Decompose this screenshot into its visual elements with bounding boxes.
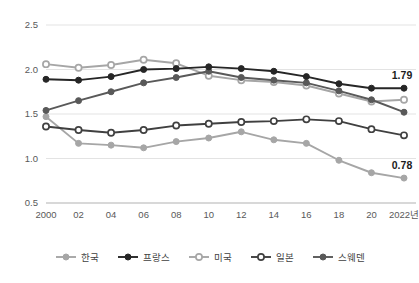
data-point bbox=[141, 80, 147, 86]
legend-item-label: 미국 bbox=[214, 250, 232, 264]
data-point bbox=[368, 85, 374, 91]
legend-item-label: 일본 bbox=[276, 250, 294, 264]
y-axis-tick-label: 0.5 bbox=[25, 197, 38, 208]
plot-area: 2.52.01.51.00.52000020406081012141618202… bbox=[0, 0, 419, 236]
data-point bbox=[401, 132, 407, 138]
data-point bbox=[271, 77, 277, 83]
data-point bbox=[43, 114, 49, 120]
data-point bbox=[173, 122, 179, 128]
fertility-rate-line-chart: 2.52.01.51.00.52000020406081012141618202… bbox=[0, 0, 419, 283]
data-point bbox=[303, 80, 309, 86]
data-point bbox=[108, 89, 114, 95]
x-axis-tick-label: 02 bbox=[73, 209, 84, 220]
data-point bbox=[336, 118, 342, 124]
data-point bbox=[76, 98, 82, 104]
legend-item-label: 한국 bbox=[81, 250, 99, 264]
legend-point bbox=[257, 254, 263, 260]
legend-point bbox=[125, 254, 131, 260]
data-point bbox=[75, 65, 81, 71]
data-point bbox=[271, 137, 277, 143]
data-point bbox=[43, 61, 49, 67]
data-point bbox=[368, 126, 374, 132]
data-point bbox=[368, 170, 374, 176]
data-point bbox=[336, 88, 342, 94]
series-2 bbox=[43, 57, 407, 105]
x-axis-tick-label: 12 bbox=[236, 209, 247, 220]
y-axis-tick-label: 1.5 bbox=[25, 108, 38, 119]
data-point bbox=[75, 127, 81, 133]
data-point bbox=[206, 64, 212, 70]
data-point bbox=[303, 74, 309, 80]
data-point bbox=[108, 62, 114, 68]
data-label: 1.79 bbox=[392, 69, 413, 81]
data-point bbox=[173, 75, 179, 81]
x-axis-tick-label: 16 bbox=[301, 209, 312, 220]
y-axis-tick-label: 2.0 bbox=[25, 64, 38, 75]
plot-svg: 2.52.01.51.00.52000020406081012141618202… bbox=[0, 0, 419, 236]
data-point bbox=[238, 119, 244, 125]
legend-item-2[interactable]: 미국 bbox=[188, 250, 232, 264]
data-point bbox=[43, 107, 49, 113]
data-point bbox=[43, 123, 49, 129]
y-axis-tick-label: 1.0 bbox=[25, 153, 38, 164]
data-point bbox=[206, 121, 212, 127]
y-axis-tick-label: 2.5 bbox=[25, 19, 38, 30]
x-axis-tick-label: 2022년 bbox=[389, 209, 419, 220]
data-point bbox=[76, 140, 82, 146]
data-point bbox=[303, 116, 309, 122]
legend-marker-icon bbox=[312, 252, 334, 262]
x-axis-tick-label: 04 bbox=[106, 209, 117, 220]
data-point bbox=[271, 68, 277, 74]
data-point bbox=[238, 75, 244, 81]
data-point bbox=[76, 77, 82, 83]
data-point bbox=[271, 118, 277, 124]
series-4 bbox=[43, 68, 407, 115]
data-point bbox=[401, 97, 407, 103]
legend-item-label: 프랑스 bbox=[143, 250, 170, 264]
legend-item-0[interactable]: 한국 bbox=[55, 250, 99, 264]
x-axis-tick-label: 2000 bbox=[35, 209, 56, 220]
data-point bbox=[141, 145, 147, 151]
data-point bbox=[141, 127, 147, 133]
data-point bbox=[173, 66, 179, 72]
chart-legend: 한국프랑스미국일본스웨덴 bbox=[0, 243, 419, 271]
x-axis-tick-label: 18 bbox=[334, 209, 345, 220]
legend-marker-icon bbox=[117, 252, 139, 262]
series-line bbox=[46, 117, 404, 178]
data-point bbox=[108, 74, 114, 80]
data-point bbox=[401, 109, 407, 115]
legend-marker-icon bbox=[250, 252, 272, 262]
legend-marker-icon bbox=[55, 252, 77, 262]
data-point bbox=[303, 140, 309, 146]
data-point bbox=[401, 175, 407, 181]
data-point bbox=[238, 129, 244, 135]
data-point bbox=[238, 66, 244, 72]
data-label: 0.78 bbox=[392, 159, 413, 171]
x-axis-tick-label: 14 bbox=[269, 209, 280, 220]
data-point bbox=[108, 130, 114, 136]
data-point bbox=[206, 135, 212, 141]
legend-item-4[interactable]: 스웨덴 bbox=[312, 250, 365, 264]
data-point bbox=[336, 81, 342, 87]
series-line bbox=[46, 119, 404, 135]
legend-item-1[interactable]: 프랑스 bbox=[117, 250, 170, 264]
data-point bbox=[141, 57, 147, 63]
x-axis-tick-label: 06 bbox=[138, 209, 149, 220]
legend-point bbox=[63, 254, 69, 260]
data-point bbox=[173, 139, 179, 145]
legend-marker-icon bbox=[188, 252, 210, 262]
legend-point bbox=[320, 254, 326, 260]
data-point bbox=[336, 157, 342, 163]
legend-item-3[interactable]: 일본 bbox=[250, 250, 294, 264]
data-point bbox=[141, 67, 147, 73]
data-point bbox=[368, 97, 374, 103]
legend-item-label: 스웨덴 bbox=[338, 250, 365, 264]
data-point bbox=[401, 85, 407, 91]
legend-point bbox=[195, 254, 201, 260]
x-axis-tick-label: 20 bbox=[366, 209, 377, 220]
data-point bbox=[108, 142, 114, 148]
x-axis-tick-label: 10 bbox=[203, 209, 214, 220]
data-point bbox=[43, 76, 49, 82]
x-axis-tick-label: 08 bbox=[171, 209, 182, 220]
